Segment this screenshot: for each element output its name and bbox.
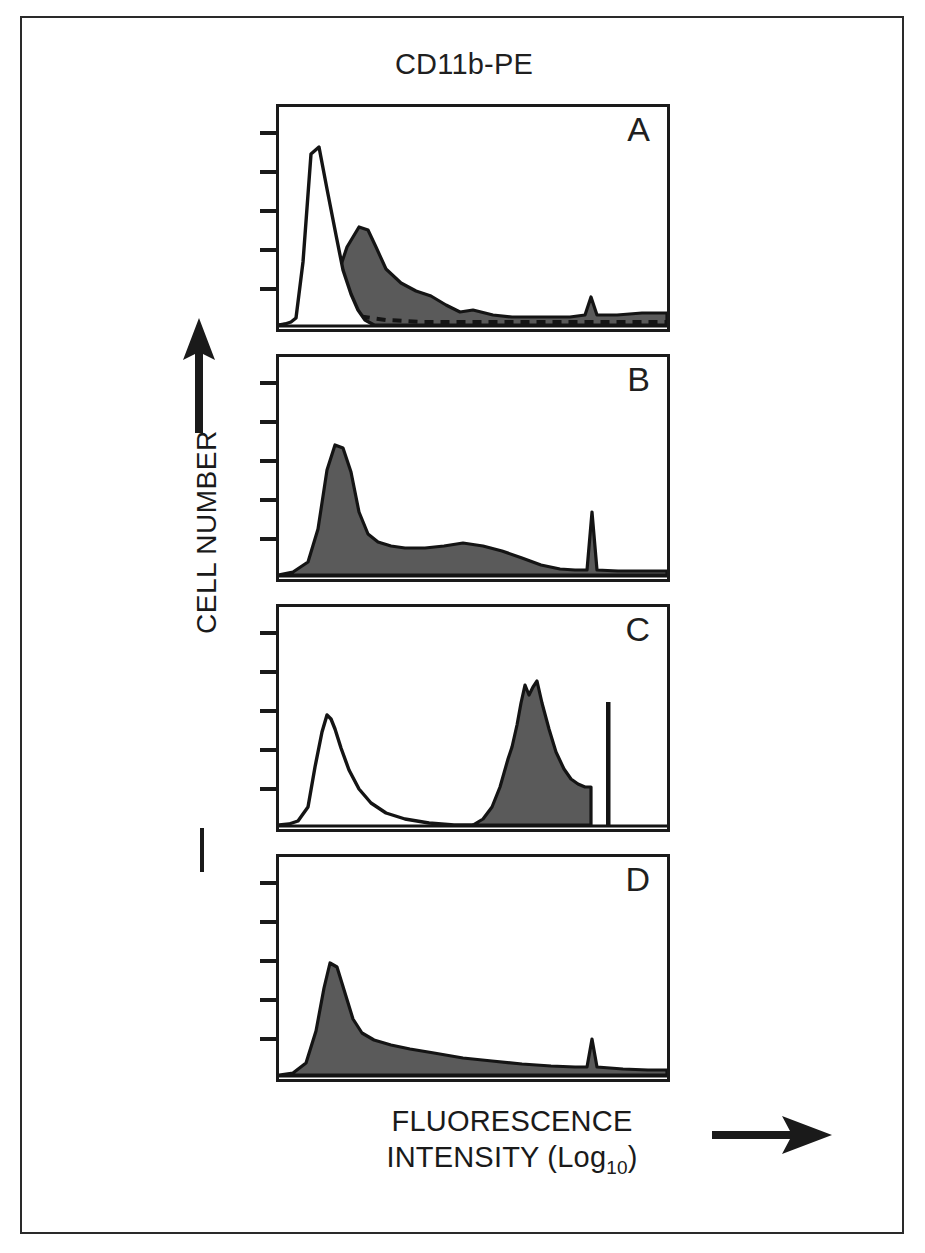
right-arrow-icon (712, 1112, 832, 1162)
tick-mark (260, 1037, 276, 1041)
panel-d-ticks (260, 854, 276, 1082)
tick-mark (260, 670, 276, 674)
x-axis-label-line2: INTENSITY (Log10) (312, 1140, 712, 1179)
tick-mark (260, 248, 276, 252)
tick-mark (260, 131, 276, 135)
tick-mark (260, 537, 276, 541)
panel-d-plot (276, 854, 670, 1082)
tick-mark (260, 420, 276, 424)
panel-c-letter: C (625, 612, 650, 646)
tick-mark (260, 381, 276, 385)
tick-mark (260, 998, 276, 1002)
x-axis-label-line1: FLUORESCENCE (312, 1104, 712, 1140)
panel-c: C (276, 604, 670, 832)
figure-border: CD11b-PE CELL NUMBER (20, 16, 904, 1234)
up-arrow-icon (177, 318, 221, 437)
tick-mark (260, 170, 276, 174)
panel-d-letter: D (625, 862, 650, 896)
x-axis-group: FLUORESCENCE INTENSITY (Log10) (312, 1104, 872, 1204)
panel-a-letter: A (627, 112, 650, 146)
tick-mark (260, 709, 276, 713)
panel-b: B (276, 354, 670, 582)
panel-c-ticks (260, 604, 276, 832)
tick-mark (260, 787, 276, 791)
panel-a-plot (276, 104, 670, 332)
panel-b-ticks (260, 354, 276, 582)
tick-mark (260, 459, 276, 463)
y-axis-dash (200, 828, 204, 872)
panel-a-ticks (260, 104, 276, 332)
x-axis-label-line2-sub: 10 (606, 1157, 628, 1178)
x-axis-label: FLUORESCENCE INTENSITY (Log10) (312, 1104, 712, 1179)
tick-mark (260, 287, 276, 291)
y-axis-group: CELL NUMBER (157, 318, 247, 888)
panel-b-letter: B (627, 362, 650, 396)
panel-stack: A B (276, 104, 670, 1088)
panel-b-plot (276, 354, 670, 582)
panel-c-plot (276, 604, 670, 832)
tick-mark (260, 498, 276, 502)
figure-title: CD11b-PE (22, 48, 906, 81)
tick-mark (260, 631, 276, 635)
tick-mark (260, 920, 276, 924)
y-axis-label: CELL NUMBER (191, 434, 223, 634)
tick-mark (260, 209, 276, 213)
panel-d: D (276, 854, 670, 1082)
x-axis-label-line2-prefix: INTENSITY (Log (386, 1141, 606, 1173)
tick-mark (260, 748, 276, 752)
tick-mark (260, 881, 276, 885)
x-axis-label-line2-suffix: ) (628, 1141, 638, 1173)
panel-a: A (276, 104, 670, 332)
tick-mark (260, 959, 276, 963)
